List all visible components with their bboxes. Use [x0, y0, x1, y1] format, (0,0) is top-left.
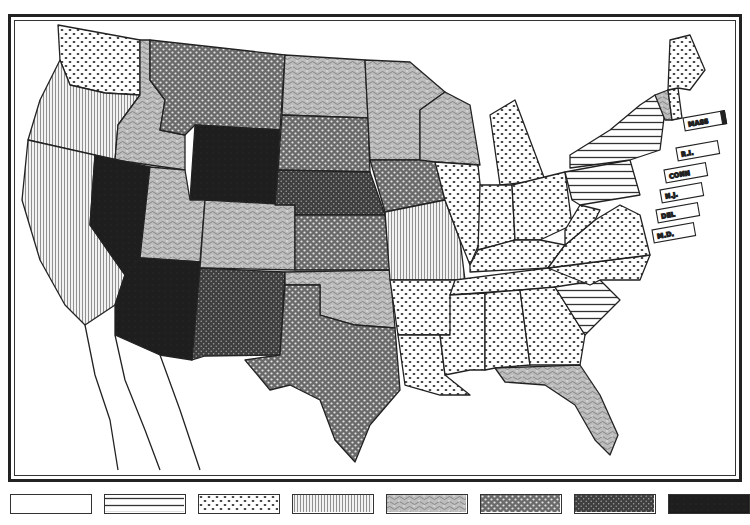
- legend-swatch-8: [668, 494, 750, 514]
- legend-swatch-2: [104, 494, 186, 514]
- state-oh: [512, 172, 572, 240]
- state-wy: [190, 125, 280, 205]
- us-choropleth-map: MASS R.I. CONN N.J. DEL M.D.: [0, 0, 750, 490]
- callout-del: DEL: [656, 203, 700, 223]
- legend-swatch-3: [198, 494, 280, 514]
- state-in: [478, 185, 515, 250]
- legend-swatch-4: [292, 494, 374, 514]
- callout-nj: N.J.: [660, 183, 704, 203]
- callout-md: M.D.: [652, 223, 696, 243]
- callout-conn: CONN: [664, 163, 708, 183]
- state-me: [668, 35, 705, 90]
- state-ks: [295, 215, 390, 270]
- baja-outline: [85, 325, 118, 470]
- legend-swatch-7: [574, 494, 656, 514]
- state-co: [200, 200, 295, 270]
- state-ar: [390, 280, 455, 335]
- state-nd: [282, 55, 368, 118]
- callout-group: MASS R.I. CONN N.J. DEL M.D.: [652, 111, 727, 243]
- callout-mass: MASS: [683, 111, 727, 131]
- state-mi: [490, 100, 545, 185]
- state-nm: [192, 268, 285, 360]
- state-wi: [420, 92, 480, 165]
- callout-ri: R.I.: [676, 141, 720, 161]
- legend-swatch-5: [386, 494, 468, 514]
- state-sd: [278, 115, 370, 172]
- state-mt: [150, 40, 285, 135]
- state-ny: [570, 95, 665, 168]
- state-fl: [495, 365, 618, 455]
- state-az: [115, 258, 200, 360]
- legend-swatch-1: [10, 494, 92, 514]
- legend-swatch-6: [480, 494, 562, 514]
- pattern-legend: [0, 494, 750, 518]
